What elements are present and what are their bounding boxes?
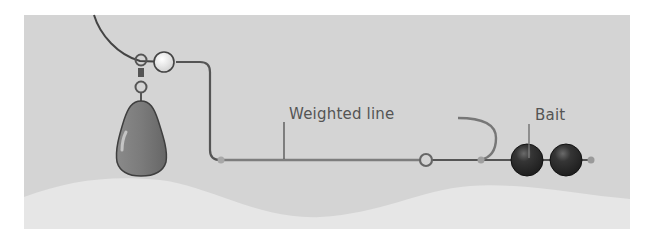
line-stop-knot [218, 157, 225, 164]
bead [154, 52, 174, 72]
bait-label: Bait [535, 106, 565, 124]
bait-ball-2 [550, 144, 582, 176]
bait-stop [588, 157, 595, 164]
rig-diagram: Weighted line Bait [0, 0, 648, 239]
hook-knot [478, 157, 485, 164]
weighted-line-label: Weighted line [289, 105, 394, 123]
swivel-body [138, 68, 144, 77]
bait-ball-1 [511, 144, 543, 176]
